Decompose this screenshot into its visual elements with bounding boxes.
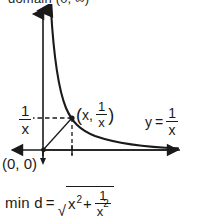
equation-equals-sign: =: [155, 115, 163, 129]
radicand-fraction: 1 x2: [95, 189, 111, 218]
curve-equation-label: y = 1 x: [145, 106, 178, 137]
point-close-paren: ): [108, 106, 114, 124]
y-axis: [40, 14, 46, 165]
figure-svg: [0, 4, 200, 172]
point-comma: ,: [89, 108, 93, 122]
equation-numerator: 1: [166, 106, 178, 121]
radicand-term1-base: x: [68, 195, 76, 212]
equation-fraction: 1 x: [166, 106, 178, 137]
origin-marker: [41, 147, 46, 152]
y-value-numerator: 1: [19, 103, 31, 119]
point-fraction-denominator: x: [96, 115, 107, 129]
y-value-denominator: x: [19, 120, 31, 136]
y-axis-value-label: 1 x: [19, 103, 31, 136]
min-distance-lead: min d: [5, 194, 43, 211]
point-x-part: x: [82, 108, 89, 122]
radicand-den-exponent: 2: [103, 198, 109, 209]
curve-point-marker: [69, 115, 74, 120]
distance-segment: [44, 119, 72, 150]
point-fraction-numerator: 1: [96, 100, 107, 114]
min-distance-equals: =: [46, 194, 55, 211]
curve-point-label: ( x , 1 x ): [76, 100, 114, 129]
radicand-plus-sign: +: [83, 195, 92, 212]
equation-denominator: x: [167, 122, 178, 137]
min-distance-formula: min d = √ x2 + 1 x2: [5, 186, 114, 218]
square-root: √ x2 + 1 x2: [58, 186, 114, 218]
equation-lhs: y: [145, 115, 152, 129]
radicand-fraction-denominator: x2: [95, 204, 111, 218]
origin-label: (0, 0): [2, 156, 37, 171]
hyperbola-figure: 1 x ( x , 1 x ) y = 1 x (0, 0): [0, 4, 200, 172]
radical-sign: √: [58, 202, 66, 219]
radicand: x2 + 1 x2: [66, 186, 114, 218]
y-value-fraction: 1 x: [19, 103, 31, 136]
point-fraction: 1 x: [96, 100, 107, 129]
